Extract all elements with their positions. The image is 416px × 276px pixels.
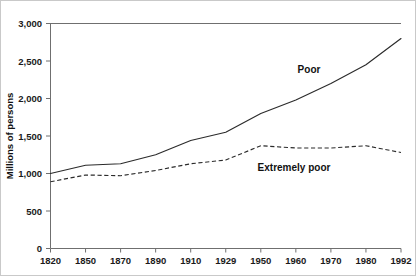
x-tick-label-1850: 1850	[75, 255, 96, 266]
x-tick-labels: 1820185018701890191019291950196019701980…	[40, 255, 412, 266]
y-tick-label-3000: 3,000	[18, 18, 42, 29]
series-annotation-poor: Poor	[298, 64, 321, 75]
y-axis-title: Millions of persons	[4, 93, 15, 180]
series-line-poor	[51, 39, 402, 174]
x-tick-label-1950: 1950	[250, 255, 271, 266]
y-tick-label-1000: 1,000	[18, 168, 42, 179]
x-tick-label-1980: 1980	[355, 255, 376, 266]
line-chart: 3,000 2,500 2,000 1,500 1,000 500 0 Mill…	[1, 1, 416, 276]
y-tick-label-500: 500	[26, 206, 42, 217]
x-tick-label-1870: 1870	[110, 255, 131, 266]
y-tick-marks	[46, 24, 51, 249]
x-tick-label-1890: 1890	[145, 255, 166, 266]
x-tick-label-1929: 1929	[215, 255, 236, 266]
series-line-extremely-poor	[51, 146, 402, 182]
y-tick-label-1500: 1,500	[18, 131, 42, 142]
chart-figure: 3,000 2,500 2,000 1,500 1,000 500 0 Mill…	[0, 0, 416, 276]
x-tick-marks	[51, 249, 402, 253]
x-tick-label-1910: 1910	[180, 255, 201, 266]
x-tick-label-1970: 1970	[320, 255, 341, 266]
y-tick-label-0: 0	[37, 243, 42, 254]
x-tick-label-1820: 1820	[40, 255, 61, 266]
series-annotation-extremely-poor: Extremely poor	[258, 162, 331, 173]
y-tick-label-2500: 2,500	[18, 56, 42, 67]
x-tick-label-1960: 1960	[285, 255, 306, 266]
y-tick-label-2000: 2,000	[18, 93, 42, 104]
x-tick-label-1992: 1992	[390, 255, 411, 266]
y-tick-labels: 3,000 2,500 2,000 1,500 1,000 500 0	[18, 18, 42, 254]
